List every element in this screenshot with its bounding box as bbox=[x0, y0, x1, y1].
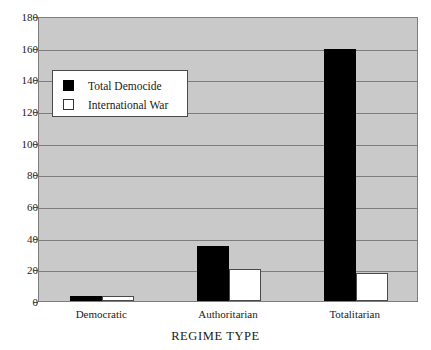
bar-totalitarian-international-war bbox=[356, 273, 388, 302]
x-axis-label-totalitarian: Totalitarian bbox=[329, 308, 380, 320]
legend-swatch-icon-international-war bbox=[63, 99, 74, 110]
y-tick-mark bbox=[33, 270, 38, 271]
legend-label-total-democide: Total Democide bbox=[88, 80, 162, 92]
bar-chart: 020406080100120140160180 DemocraticAutho… bbox=[0, 0, 431, 350]
gridline bbox=[39, 208, 417, 209]
gridline bbox=[39, 50, 417, 51]
chart-legend: Total Democide International War bbox=[52, 70, 188, 117]
bar-authoritarian-total-democide bbox=[197, 246, 229, 301]
plot-area bbox=[38, 17, 418, 302]
legend-item-total-democide: Total Democide bbox=[63, 77, 187, 94]
y-tick-mark bbox=[33, 144, 38, 145]
legend-item-international-war: International War bbox=[63, 96, 187, 113]
y-tick-mark bbox=[33, 302, 38, 303]
legend-swatch-icon-total-democide bbox=[63, 80, 74, 91]
y-tick-mark bbox=[33, 207, 38, 208]
gridline bbox=[39, 145, 417, 146]
x-axis-label-democratic: Democratic bbox=[76, 308, 127, 320]
gridline bbox=[39, 240, 417, 241]
y-tick-mark bbox=[33, 175, 38, 176]
x-axis-label-authoritarian: Authoritarian bbox=[198, 308, 257, 320]
y-tick-mark bbox=[33, 239, 38, 240]
bar-totalitarian-total-democide bbox=[324, 49, 356, 301]
y-tick-mark bbox=[33, 80, 38, 81]
legend-label-international-war: International War bbox=[88, 99, 168, 111]
bar-democratic-total-democide bbox=[70, 296, 102, 301]
bar-democratic-international-war bbox=[102, 296, 134, 301]
y-tick-mark bbox=[33, 112, 38, 113]
gridline bbox=[39, 176, 417, 177]
y-tick-mark bbox=[33, 49, 38, 50]
bar-authoritarian-international-war bbox=[229, 269, 261, 301]
x-axis-title: REGIME TYPE bbox=[0, 329, 431, 344]
y-tick-mark bbox=[33, 17, 38, 18]
